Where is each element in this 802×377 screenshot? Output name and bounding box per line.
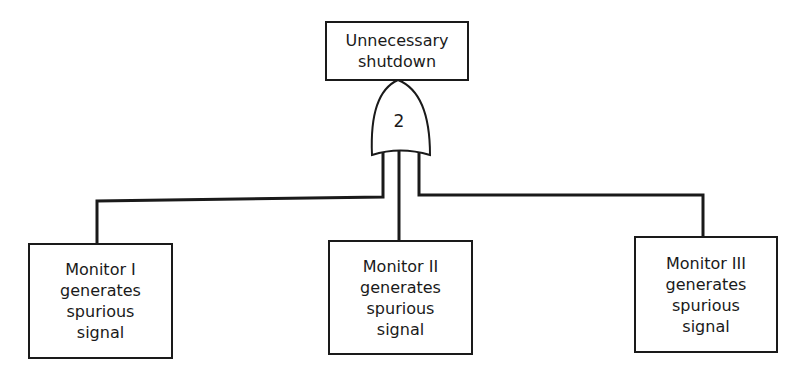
gate-vote-label: 2 — [389, 111, 409, 131]
event-2-line-4: signal — [360, 319, 441, 340]
event-3-line-2: generates — [666, 274, 747, 295]
event-1-line-3: spurious — [60, 301, 141, 322]
top-event-line-2: shutdown — [346, 51, 449, 72]
basic-event-monitor-2: Monitor II generates spurious signal — [328, 240, 473, 355]
event-3-line-3: spurious — [666, 295, 747, 316]
top-event-box: Unnecessary shutdown — [325, 21, 469, 81]
event-1-line-4: signal — [60, 322, 141, 343]
event-2-line-1: Monitor II — [360, 256, 441, 277]
event-3-line-4: signal — [666, 316, 747, 337]
event-1-line-1: Monitor I — [60, 259, 141, 280]
event-3-line-1: Monitor III — [666, 253, 747, 274]
connector-monitor-1 — [97, 152, 383, 243]
basic-event-monitor-3: Monitor III generates spurious signal — [634, 236, 778, 353]
event-2-line-2: generates — [360, 277, 441, 298]
event-2-line-3: spurious — [360, 298, 441, 319]
event-1-line-2: generates — [60, 280, 141, 301]
connector-monitor-3 — [419, 152, 703, 236]
top-event-line-1: Unnecessary — [346, 30, 449, 51]
basic-event-monitor-1: Monitor I generates spurious signal — [28, 243, 173, 359]
